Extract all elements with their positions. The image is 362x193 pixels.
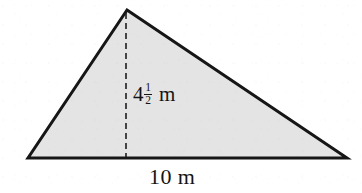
height-fraction-numerator: 1 xyxy=(144,82,152,94)
height-unit: m xyxy=(159,84,175,105)
height-whole-number: 4 xyxy=(133,84,144,105)
height-fraction-denominator: 2 xyxy=(144,95,152,107)
base-measurement-label: 10 m xyxy=(149,166,195,188)
triangle-figure: 412m 10 m xyxy=(0,0,362,193)
height-fraction: 12 xyxy=(144,82,152,106)
height-measurement-label: 412m xyxy=(133,82,175,106)
triangle-shape xyxy=(28,10,347,158)
